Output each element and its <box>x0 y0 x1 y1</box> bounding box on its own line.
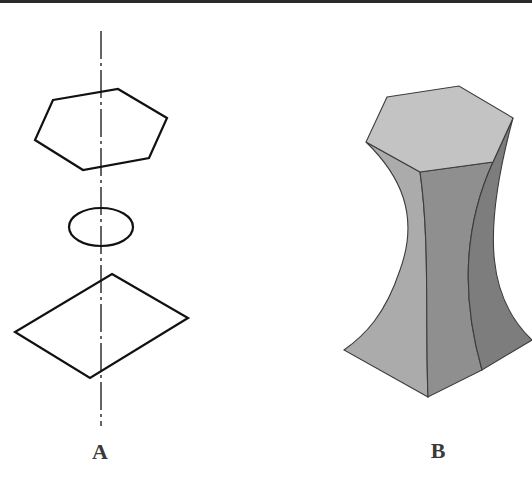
left-face <box>344 142 428 397</box>
label-b: B <box>431 438 446 464</box>
figure-b <box>344 86 532 397</box>
label-a: A <box>92 439 108 465</box>
figure-a <box>15 31 188 426</box>
diagram-canvas <box>0 0 532 489</box>
